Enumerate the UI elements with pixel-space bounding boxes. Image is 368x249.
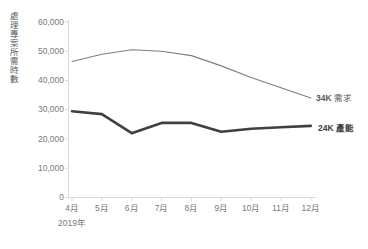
series-label-demand: 34K 需求 [316, 91, 352, 103]
series-value-demand: 34K [316, 93, 332, 103]
axes [65, 20, 316, 201]
series-label-capacity: 24K 產能 [318, 121, 354, 133]
series-name-capacity: 產能 [336, 123, 354, 133]
y-axis-ticks [65, 22, 69, 198]
series-name-demand: 需求 [334, 93, 352, 103]
line-chart: 處理專案所需時數 60,000 50,000 40,000 30,000 20,… [0, 0, 368, 249]
series-value-capacity: 24K [318, 123, 334, 133]
x-tick-label: 12月 [293, 203, 329, 213]
series-line-capacity [72, 111, 311, 133]
series-line-demand [72, 50, 311, 98]
x-axis-ticks [72, 198, 311, 202]
x-axis-year-label: 2019年 [58, 216, 86, 228]
